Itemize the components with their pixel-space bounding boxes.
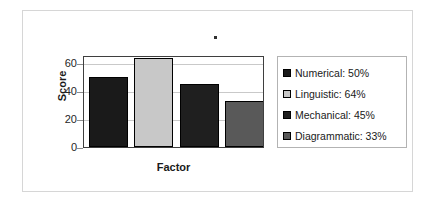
speck-dot-artifact (214, 36, 217, 39)
y-tick-label-20: 20 (51, 114, 77, 125)
legend-label: Diagrammatic: 33% (295, 130, 387, 142)
legend-swatch-icon-mechanical (283, 111, 291, 119)
bar-series (84, 57, 263, 147)
legend-label: Linguistic: 64% (295, 88, 366, 100)
legend-item-linguistic: Linguistic: 64% (283, 84, 401, 103)
legend-label: Mechanical: 45% (295, 109, 375, 121)
chart-legend: Numerical: 50%Linguistic: 64%Mechanical:… (277, 56, 407, 148)
plot-area (83, 56, 264, 148)
legend-item-mechanical: Mechanical: 45% (283, 105, 401, 124)
y-tickmark-0 (77, 148, 83, 149)
legend-swatch-icon-numerical (283, 69, 291, 77)
legend-swatch-icon-diagrammatic (283, 132, 291, 140)
figure-root: Score 0204060 Factor Numerical: 50%Lingu… (0, 0, 429, 207)
y-tick-label-0: 0 (51, 142, 77, 153)
legend-item-diagrammatic: Diagrammatic: 33% (283, 126, 401, 145)
bar-linguistic (134, 58, 173, 147)
bar-mechanical (180, 84, 219, 147)
legend-label: Numerical: 50% (295, 67, 369, 79)
bar-diagrammatic (225, 101, 264, 147)
x-axis-title: Factor (83, 161, 264, 173)
y-tick-label-60: 60 (51, 58, 77, 69)
y-tick-label-40: 40 (51, 86, 77, 97)
bar-numerical (89, 77, 128, 147)
legend-swatch-icon-linguistic (283, 90, 291, 98)
legend-item-numerical: Numerical: 50% (283, 63, 401, 82)
